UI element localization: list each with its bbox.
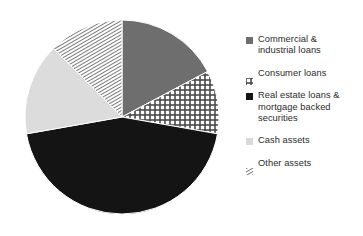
pie-chart-figure: Commercial & industrial loans Consumer l… [0, 0, 363, 236]
diagonal-hatch-icon [246, 168, 253, 175]
legend-label-real-estate-loans: Real estate loans & mortgage backed secu… [258, 90, 340, 124]
legend-item-consumer-loans[interactable]: Consumer loans [246, 68, 363, 79]
legend-item-cash-assets[interactable]: Cash assets [246, 135, 363, 146]
legend-item-other-assets[interactable]: Other assets [246, 158, 363, 169]
legend-swatch-grid-checker-square-icon [246, 71, 253, 78]
legend-label-other-assets: Other assets [258, 158, 311, 169]
grid-checker-icon [246, 78, 253, 85]
legend-label-cash-assets: Cash assets [258, 135, 310, 146]
legend-swatch-diagonal-hatch-square-icon [246, 161, 253, 168]
legend-swatch-solid-black-square-icon [246, 93, 253, 100]
legend-item-real-estate-loans[interactable]: Real estate loans & mortgage backed secu… [246, 90, 363, 124]
pie-chart-svg [0, 0, 244, 236]
legend-label-commercial-industrial-loans: Commercial & industrial loans [258, 34, 321, 57]
legend-swatch-solid-medium-gray-square-icon [246, 37, 253, 44]
pie-chart-plot-area [0, 0, 244, 236]
legend-item-commercial-industrial-loans[interactable]: Commercial & industrial loans [246, 34, 363, 57]
chart-legend: Commercial & industrial loans Consumer l… [246, 34, 363, 180]
legend-label-consumer-loans: Consumer loans [258, 68, 326, 79]
pie-slice-real-estate-loans-mortgage-backed-securities[interactable] [26, 117, 217, 214]
legend-swatch-solid-light-gray-square-icon [246, 138, 253, 145]
